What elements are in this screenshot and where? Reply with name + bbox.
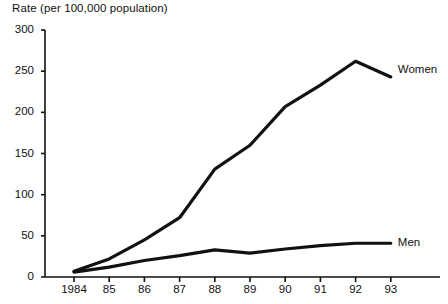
y-axis-tick-label: 0 bbox=[0, 270, 34, 282]
y-axis-tick-label: 50 bbox=[0, 229, 34, 241]
chart-axes bbox=[45, 30, 440, 277]
series-line-women bbox=[74, 61, 391, 271]
y-axis-tick-label: 100 bbox=[0, 188, 34, 200]
line-chart: Rate (per 100,000 population) 0501001502… bbox=[0, 0, 448, 304]
series-line-men bbox=[74, 243, 391, 272]
chart-series-lines bbox=[74, 61, 391, 272]
series-label-men: Men bbox=[398, 236, 420, 248]
x-axis-tick-label: 93 bbox=[361, 283, 421, 295]
y-axis-tick-label: 300 bbox=[0, 23, 34, 35]
chart-canvas bbox=[0, 0, 448, 304]
y-axis-tick-label: 250 bbox=[0, 64, 34, 76]
series-label-women: Women bbox=[398, 63, 437, 75]
y-axis-tick-label: 200 bbox=[0, 105, 34, 117]
y-axis-tick-label: 150 bbox=[0, 147, 34, 159]
